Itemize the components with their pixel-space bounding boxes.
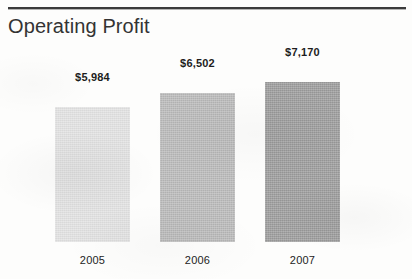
- bar-group-2006[interactable]: $6,502 2006: [160, 46, 235, 279]
- header-divider-rule: [8, 7, 406, 9]
- bar-value-label-2007: $7,170: [265, 46, 340, 58]
- bar-2007[interactable]: [265, 82, 340, 242]
- bar-2005[interactable]: [55, 107, 130, 242]
- bar-2006[interactable]: [160, 93, 235, 242]
- bar-value-label-2006: $6,502: [160, 57, 235, 69]
- bar-value-label-2005: $5,984: [55, 71, 130, 83]
- category-label-2007: 2007: [253, 254, 352, 266]
- category-label-2005: 2005: [43, 254, 142, 266]
- bar-group-2005[interactable]: $5,984 2005: [55, 46, 130, 279]
- category-label-2006: 2006: [148, 254, 247, 266]
- bar-group-2007[interactable]: $7,170 2007: [265, 46, 340, 279]
- chart-page: Operating Profit $5,984 2005 $6,502 2006…: [0, 0, 412, 279]
- page-title: Operating Profit: [8, 14, 150, 38]
- bar-chart-plot-area: $5,984 2005 $6,502 2006 $7,170 2007: [0, 46, 412, 279]
